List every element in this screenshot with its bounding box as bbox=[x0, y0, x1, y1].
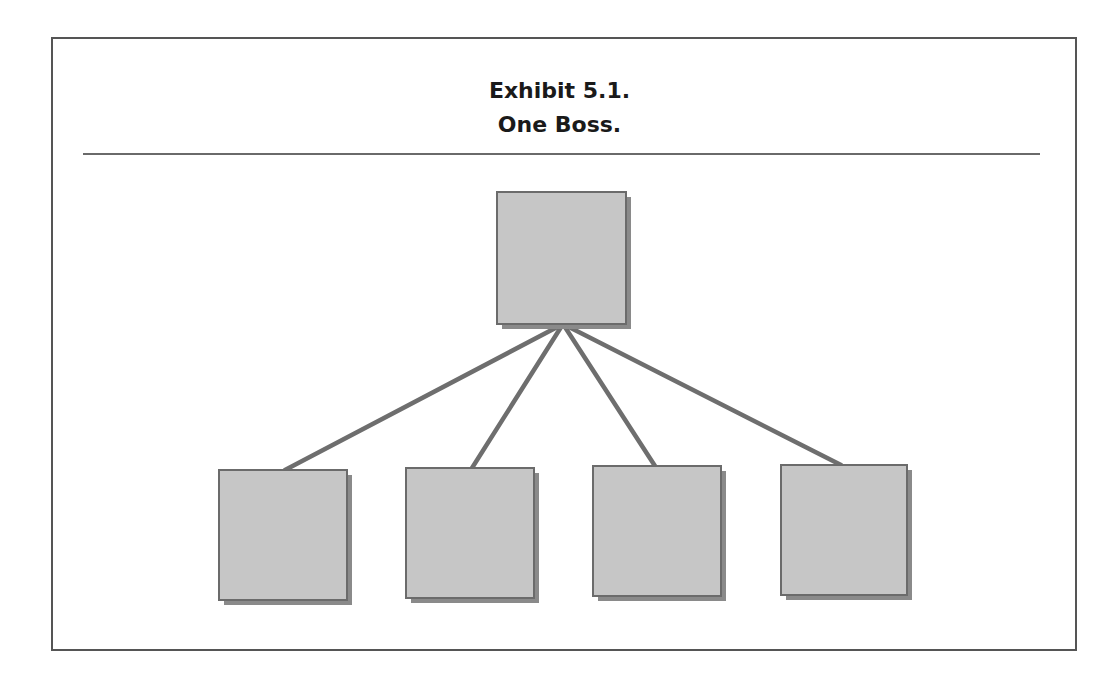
subordinate-2-box bbox=[406, 468, 539, 603]
connector-lines bbox=[285, 324, 841, 470]
subordinate-4-box bbox=[781, 465, 912, 600]
connector-line-subordinate-1 bbox=[285, 324, 563, 470]
connector-line-subordinate-4 bbox=[563, 324, 841, 465]
box-face bbox=[406, 468, 534, 598]
org-chart-diagram bbox=[0, 0, 1119, 696]
box-face bbox=[219, 470, 347, 600]
box-face bbox=[497, 192, 626, 324]
box-face bbox=[781, 465, 907, 595]
org-nodes bbox=[219, 192, 912, 605]
subordinate-3-box bbox=[593, 466, 726, 601]
boss-box bbox=[497, 192, 631, 329]
subordinate-1-box bbox=[219, 470, 352, 605]
box-face bbox=[593, 466, 721, 596]
